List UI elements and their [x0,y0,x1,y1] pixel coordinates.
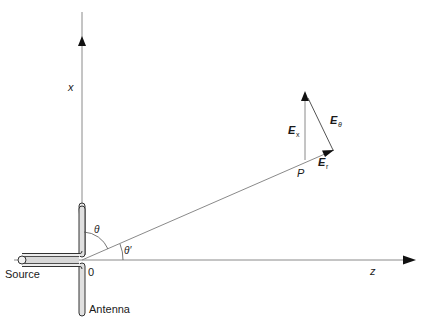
antenna-label: Antenna [89,303,131,315]
ex-label: E x [288,124,300,138]
theta-prime-label: θ′ [124,245,132,256]
svg-text:E: E [288,124,296,136]
point-p-label: P [297,167,305,179]
antenna-diagram: x z 0 θ θ′ P E x E θ E r Source Antenna [0,0,426,331]
theta-label: θ [94,224,100,235]
theta-prime-arc [120,244,123,260]
svg-text:x: x [296,131,300,138]
z-axis-label: z [369,265,376,277]
etheta-label: E θ [330,114,342,128]
svg-text:θ: θ [338,121,342,128]
source-label: Source [5,268,40,280]
svg-text:r: r [326,163,329,170]
origin-label: 0 [88,266,94,278]
x-axis [78,12,86,204]
ex-arrow-icon [301,91,309,101]
x-axis-arrow-icon [78,36,86,46]
svg-text:E: E [318,156,326,168]
er-label: E r [318,156,329,170]
feed-line [18,251,82,269]
svg-text:E: E [330,114,338,126]
z-axis-arrow-icon [403,256,416,265]
source-icon [18,256,26,264]
x-axis-label: x [67,81,74,93]
